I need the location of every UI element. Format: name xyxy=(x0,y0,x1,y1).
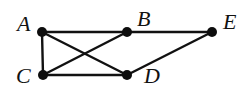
node-c xyxy=(38,70,48,80)
node-label-a: A xyxy=(15,11,31,36)
edge-d-e xyxy=(127,32,212,75)
edge-a-c xyxy=(42,32,43,75)
node-label-c: C xyxy=(16,63,31,88)
node-label-b: B xyxy=(137,6,150,31)
graph-canvas: ABECD xyxy=(0,0,251,91)
node-d xyxy=(122,70,132,80)
graph-diagram: ABECD xyxy=(0,0,251,91)
node-a xyxy=(37,27,47,37)
edges-group xyxy=(42,32,212,75)
node-label-d: D xyxy=(143,63,160,88)
node-b xyxy=(122,27,132,37)
nodes-group xyxy=(37,27,217,80)
node-e xyxy=(207,27,217,37)
node-label-e: E xyxy=(222,9,237,34)
